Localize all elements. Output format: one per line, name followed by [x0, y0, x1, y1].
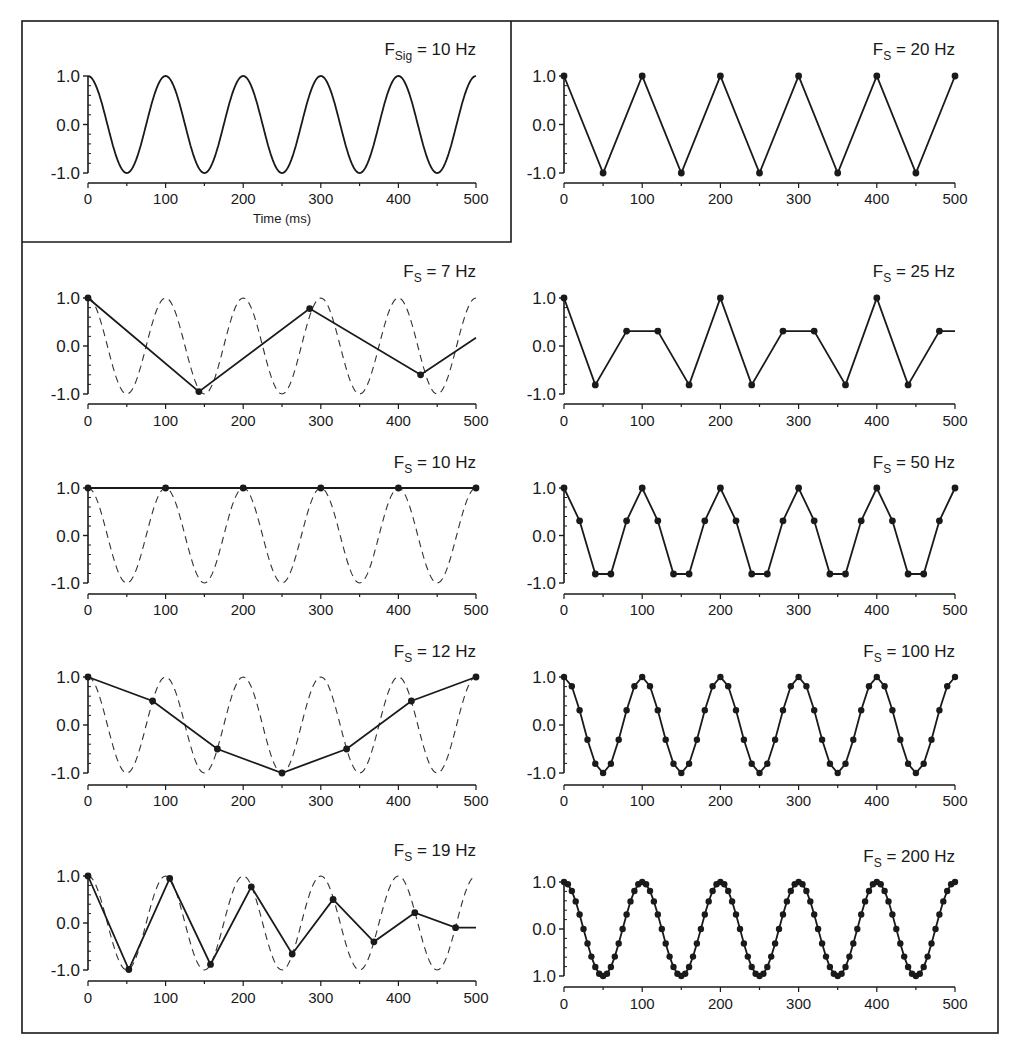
sample-point	[749, 761, 755, 767]
sample-point	[842, 964, 848, 970]
x-tick-label: 0	[84, 412, 92, 429]
y-tick-label: -1.0	[527, 164, 556, 183]
sample-point	[663, 737, 669, 743]
sample-point	[655, 911, 661, 917]
sample-point	[561, 674, 567, 680]
sample-point	[576, 911, 582, 917]
sample-point	[745, 953, 751, 959]
sample-point	[944, 888, 950, 894]
sample-point	[569, 888, 575, 894]
x-tick-label: 100	[630, 412, 655, 429]
sample-point	[408, 698, 415, 705]
panel-fs25: FS = 25 Hz1.00.0-1.00100200300400500	[527, 262, 968, 429]
sample-point	[592, 571, 599, 578]
x-tick-label: 100	[153, 989, 178, 1006]
panel-fs10: FS = 10 Hz1.00.0-1.00100200300400500	[51, 453, 489, 618]
sample-point	[748, 571, 755, 578]
sample-point	[827, 571, 834, 578]
y-tick-label: 1.0	[532, 479, 556, 498]
sample-point	[788, 888, 794, 894]
x-tick-label: 100	[630, 995, 655, 1012]
sample-point	[196, 388, 203, 395]
sample-point	[576, 707, 582, 713]
sample-point	[858, 911, 864, 917]
sample-point	[897, 737, 903, 743]
sample-point	[452, 924, 459, 931]
sample-point	[760, 971, 766, 977]
sample-point	[694, 940, 700, 946]
sample-point	[371, 938, 378, 945]
x-tick-label: 100	[153, 190, 178, 207]
x-tick-label: 300	[786, 190, 811, 207]
sample-point	[952, 73, 959, 80]
sample-point	[932, 926, 938, 932]
sample-point	[725, 683, 731, 689]
x-tick-label: 200	[708, 601, 733, 618]
panel-fs19: FS = 19 Hz1.00.0-1.00100200300400500	[51, 841, 489, 1006]
sample-point	[850, 940, 856, 946]
sample-point	[823, 953, 829, 959]
sample-point	[858, 517, 865, 524]
sample-point	[893, 926, 899, 932]
x-tick-label: 500	[942, 412, 967, 429]
sample-point	[643, 881, 649, 887]
x-tick-label: 300	[308, 190, 333, 207]
x-tick-label: 500	[463, 601, 488, 618]
sample-point	[815, 926, 821, 932]
sample-point	[655, 707, 661, 713]
sampled-line	[564, 677, 955, 773]
x-tick-label: 200	[708, 792, 733, 809]
sample-point	[795, 73, 802, 80]
sample-point	[913, 770, 919, 776]
y-tick-label: 1.0	[532, 67, 556, 86]
sample-point	[627, 898, 633, 904]
x-tick-label: 200	[708, 412, 733, 429]
y-tick-label: 1.0	[56, 867, 80, 886]
sample-point	[819, 737, 825, 743]
sample-point	[678, 170, 685, 177]
sample-point	[639, 674, 645, 680]
sample-point	[569, 683, 575, 689]
sample-point	[881, 888, 887, 894]
sample-point	[749, 964, 755, 970]
sample-point	[612, 953, 618, 959]
sample-point	[764, 964, 770, 970]
sample-point	[756, 770, 762, 776]
sample-point	[639, 485, 646, 492]
x-tick-label: 0	[84, 190, 92, 207]
x-tick-label: 0	[84, 601, 92, 618]
sample-point	[411, 909, 418, 916]
x-tick-label: 100	[630, 601, 655, 618]
sample-point	[279, 770, 286, 777]
sample-point	[659, 926, 665, 932]
sample-point	[784, 898, 790, 904]
sample-point	[811, 707, 817, 713]
panel-title: FS = 7 Hz	[403, 262, 476, 285]
x-tick-label: 200	[231, 412, 256, 429]
panel-original: FSig = 10 Hz1.00.0-1.00100200300400500Ti…	[51, 40, 489, 226]
y-tick-label: -1.0	[527, 574, 556, 593]
x-tick-label: 400	[386, 989, 411, 1006]
x-tick-label: 400	[864, 601, 889, 618]
x-tick-label: 400	[864, 412, 889, 429]
sample-point	[795, 674, 801, 680]
x-tick-label: 100	[630, 190, 655, 207]
x-tick-label: 100	[153, 601, 178, 618]
sample-point	[885, 898, 891, 904]
sample-point	[604, 971, 610, 977]
sample-point	[717, 73, 724, 80]
sample-point	[592, 382, 599, 389]
sample-point	[835, 770, 841, 776]
sample-point	[874, 674, 880, 680]
sample-point	[162, 485, 169, 492]
sample-point	[717, 295, 724, 302]
sample-point	[803, 683, 809, 689]
sample-point	[654, 517, 661, 524]
sample-point	[616, 737, 622, 743]
y-tick-label: 1.0	[532, 873, 556, 892]
sample-point	[623, 517, 630, 524]
sample-point	[686, 382, 693, 389]
sample-point	[289, 951, 296, 958]
y-tick-label: 0.0	[56, 914, 80, 933]
sample-point	[631, 683, 637, 689]
